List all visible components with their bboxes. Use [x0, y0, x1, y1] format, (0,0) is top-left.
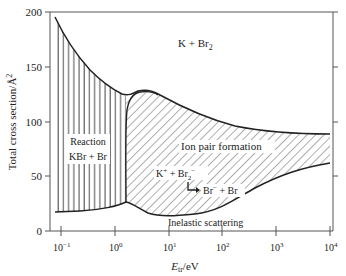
y-tick-labels: 0 50 100 150 200 [26, 6, 43, 237]
y-ticks-left [45, 12, 50, 231]
x-tick-10: 101 [163, 241, 177, 253]
reaction-label: Reaction [70, 136, 106, 147]
y-tick-150: 150 [26, 61, 43, 73]
y-tick-100: 100 [26, 116, 43, 128]
k-br2-label: K + Br2 [178, 37, 213, 52]
y-tick-0: 0 [37, 225, 43, 237]
brminus-br-label: Br− + Br [203, 184, 238, 196]
x-axis-title: Etr/eV [170, 260, 199, 274]
reaction-region [55, 17, 126, 212]
x-tick-labels: 10−1 100 101 102 103 104 [53, 241, 338, 253]
y-tick-200: 200 [26, 6, 43, 18]
y-ticks-right [333, 12, 338, 176]
x-tick-0.1: 10−1 [53, 241, 71, 253]
y-tick-50: 50 [31, 170, 43, 182]
x-tick-100: 102 [216, 241, 230, 253]
x-tick-1: 100 [109, 241, 123, 253]
y-axis-title: Total cross section/Å2 [5, 74, 18, 171]
inelastic-label: Inelastic scattering [168, 217, 243, 228]
x-tick-1000: 103 [270, 241, 284, 253]
ion-pair-label: Ion pair formation [181, 140, 262, 152]
x-tick-10000: 104 [324, 241, 338, 253]
cross-section-chart: 0 50 100 150 200 10−1 100 101 102 103 10… [0, 0, 346, 276]
kbr-br-label: KBr + Br [69, 151, 108, 162]
